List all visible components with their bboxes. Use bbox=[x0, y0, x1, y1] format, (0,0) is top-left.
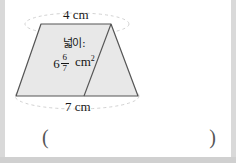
page-frame-bottom-band bbox=[0, 157, 236, 163]
answer-input[interactable] bbox=[56, 126, 208, 148]
bottom-side-length-label: 7 cm bbox=[65, 100, 91, 113]
area-unit-base: cm bbox=[75, 54, 91, 69]
answer-open-paren: ( bbox=[42, 124, 49, 150]
answer-close-paren: ) bbox=[209, 124, 216, 150]
answer-row: ( ) bbox=[30, 124, 220, 150]
area-label-text: 넓이: bbox=[41, 38, 107, 50]
page-frame-right-band bbox=[231, 0, 236, 163]
area-unit-exponent: 2 bbox=[91, 54, 95, 63]
fraction: 6 7 bbox=[61, 53, 69, 73]
fraction-numerator: 6 bbox=[61, 53, 68, 62]
area-annotation: 넓이: 6 6 7 cm2 bbox=[41, 38, 107, 73]
problem-page: 4 cm 7 cm 넓이: 6 6 7 cm2 ( ) bbox=[0, 0, 236, 163]
top-side-length-label: 4 cm bbox=[63, 8, 89, 21]
fraction-denominator: 7 bbox=[61, 64, 68, 73]
area-unit: cm2 bbox=[75, 54, 95, 69]
mixed-number-whole: 6 bbox=[53, 57, 60, 70]
area-value: 6 6 7 cm2 bbox=[41, 53, 107, 73]
mixed-number: 6 6 7 bbox=[53, 53, 70, 73]
